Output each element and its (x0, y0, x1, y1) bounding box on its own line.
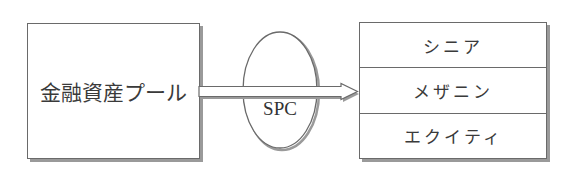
tranche-label: メザニン (413, 78, 493, 103)
spc-label: SPC (243, 98, 317, 120)
tranche-mezzanine: メザニン (360, 68, 546, 113)
tranche-senior: シニア (360, 23, 546, 68)
tranche-label: エクイティ (404, 123, 503, 148)
tranche-stack: シニア メザニン エクイティ (359, 22, 547, 159)
tranche-label: シニア (423, 33, 483, 58)
tranche-equity: エクイティ (360, 114, 546, 158)
